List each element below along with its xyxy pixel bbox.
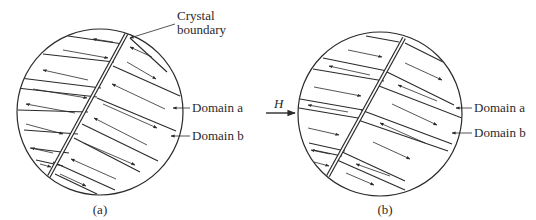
domain-wall	[17, 88, 97, 97]
magnetization-arrow-icon	[127, 62, 156, 79]
magnetization-arrow-icon	[33, 89, 87, 98]
domain-label: Domain b	[192, 128, 244, 143]
magnetization-arrow-icon	[26, 104, 75, 113]
domain-wall	[299, 108, 358, 118]
magnetization-arrow-icon	[314, 87, 361, 96]
domain-label: Domain a	[192, 100, 243, 115]
panel-a: CrystalboundaryDomain aDomain b(a)	[17, 8, 244, 217]
domain-wall	[74, 138, 140, 172]
panel-caption: (b)	[377, 202, 392, 217]
domain-label: Domain a	[474, 100, 525, 115]
domain-wall	[323, 58, 387, 71]
domain-wall	[68, 36, 123, 44]
leader-line	[130, 24, 175, 38]
domain-wall	[366, 36, 399, 42]
domain-label: Domain b	[474, 125, 526, 140]
magnetization-arrows	[308, 50, 442, 185]
domain-wall	[361, 110, 452, 144]
crystal-grain-outline	[17, 29, 183, 195]
magnetization-arrow-icon	[94, 118, 147, 145]
magnetization-arrow-icon	[311, 150, 330, 154]
magnetization-arrow-icon	[71, 159, 116, 179]
domain-wall	[313, 69, 384, 81]
domain-wall	[379, 86, 462, 118]
domain-wall	[20, 78, 101, 88]
domain-wall	[43, 54, 114, 62]
domain-wall	[82, 124, 158, 161]
magnetization-arrow-icon	[60, 174, 86, 186]
domain-wall	[337, 160, 405, 190]
magnetization-arrow-icon	[26, 124, 63, 134]
magnetization-arrow-icon	[348, 50, 382, 57]
domain-walls	[299, 36, 462, 190]
crystal-boundary-label: Crystal	[177, 8, 215, 23]
magnetic-domains-figure: CrystalboundaryDomain aDomain b(a) Domai…	[0, 0, 536, 220]
crystal-boundary-label: boundary	[177, 22, 227, 37]
domain-wall	[358, 120, 448, 151]
panel-caption: (a)	[93, 202, 107, 217]
domain-wall	[113, 66, 180, 96]
domain-wall	[387, 72, 454, 105]
panel-b: Domain aDomain bH(b)	[266, 32, 526, 217]
domain-wall	[97, 98, 176, 131]
domain-wall	[300, 99, 363, 110]
magnetization-arrow-icon	[392, 104, 437, 125]
magnetization-arrow-icon	[329, 66, 370, 75]
magnetization-arrow-icon	[405, 63, 442, 80]
magnetization-arrows	[26, 39, 165, 186]
magnetization-arrow-icon	[308, 128, 339, 135]
domain-wall	[18, 110, 88, 112]
field-label: H	[273, 96, 284, 111]
magnetization-arrow-icon	[103, 104, 157, 128]
domain-wall	[405, 43, 443, 62]
magnetization-arrow-icon	[43, 70, 88, 80]
magnetization-arrow-icon	[112, 84, 165, 109]
magnetization-arrow-icon	[373, 142, 410, 159]
magnetization-arrow-icon	[40, 164, 51, 167]
